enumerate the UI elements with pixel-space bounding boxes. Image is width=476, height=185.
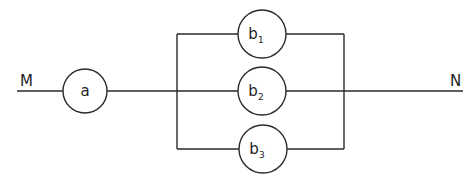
terminal-m-label: M (20, 72, 33, 90)
node-b2-base: b (248, 82, 258, 100)
node-b2: b2 (238, 67, 286, 115)
node-a-label: a (80, 82, 89, 100)
node-b1-circle (238, 10, 286, 58)
node-b2-circle (238, 67, 286, 115)
node-a: a (63, 69, 107, 113)
node-b1-subscript: 1 (258, 35, 264, 45)
node-b3-subscript: 3 (259, 150, 265, 160)
terminal-n-label: N (450, 72, 461, 90)
node-b3-base: b (249, 140, 259, 158)
node-b3-circle (239, 125, 287, 173)
node-b1: b1 (238, 10, 286, 58)
node-b3: b3 (239, 125, 287, 173)
node-b1-base: b (248, 25, 258, 43)
diagram-canvas: M N a b1 b2 b3 (0, 0, 476, 185)
node-b2-subscript: 2 (258, 92, 264, 102)
